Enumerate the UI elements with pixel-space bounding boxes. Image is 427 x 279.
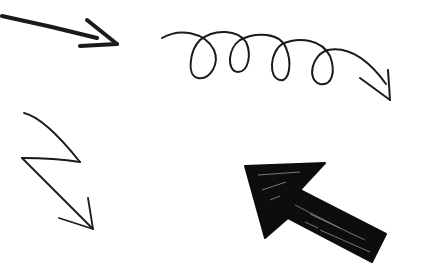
loopy-arrow-icon [162, 32, 390, 100]
straight-arrow-icon [2, 16, 117, 46]
zigzag-arrow-icon [22, 113, 93, 229]
filled-arrow-icon [245, 163, 386, 262]
hand-drawn-arrows-canvas [0, 0, 427, 279]
